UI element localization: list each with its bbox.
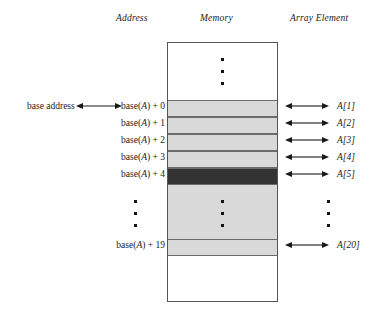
address-label-a4: base(A) + 3 xyxy=(5,152,165,162)
element-label-a20-text: A[20] xyxy=(337,240,360,250)
address-ellipsis-icon xyxy=(134,200,138,227)
array-cell-stack xyxy=(168,100,277,256)
element-label-a2: A[2] xyxy=(337,118,355,128)
memory-top-ellipsis-icon xyxy=(221,58,225,85)
element-label-a4: A[4] xyxy=(337,152,355,162)
array-cell-a1 xyxy=(168,100,277,117)
element-arrow-a2-icon xyxy=(285,117,329,129)
column-header-array-element: Array Element xyxy=(290,13,348,23)
element-arrow-a20-icon xyxy=(285,239,329,251)
address-label-a4-text: base(A) + 3 xyxy=(121,152,165,162)
element-label-a5: A[5] xyxy=(337,169,355,179)
array-cell-a20 xyxy=(168,239,277,256)
array-cell-a5-highlighted xyxy=(168,168,277,185)
memory-middle-ellipsis-icon xyxy=(221,200,225,227)
element-arrow-a1-icon xyxy=(285,100,329,112)
address-label-a3-text: base(A) + 2 xyxy=(121,135,165,145)
element-label-a4-text: A[4] xyxy=(337,152,355,162)
element-label-a20: A[20] xyxy=(337,240,360,250)
element-label-a1-text: A[1] xyxy=(337,101,355,111)
array-cell-a4 xyxy=(168,151,277,168)
element-ellipsis-icon xyxy=(327,200,331,227)
address-label-a5-text: base(A) + 4 xyxy=(121,169,165,179)
array-cell-a2 xyxy=(168,117,277,134)
element-arrow-a3-icon xyxy=(285,134,329,146)
address-label-a1-text: base(A) + 0 xyxy=(121,101,165,111)
element-label-a1: A[1] xyxy=(337,101,355,111)
element-arrow-a4-icon xyxy=(285,151,329,163)
element-label-a3: A[3] xyxy=(337,135,355,145)
address-column: base(A) + 0 base(A) + 1 base(A) + 2 base… xyxy=(0,0,165,322)
address-label-a2-text: base(A) + 1 xyxy=(121,118,165,128)
address-label-a3: base(A) + 2 xyxy=(5,135,165,145)
element-label-a5-text: A[5] xyxy=(337,169,355,179)
address-label-a20: base(A) + 19 xyxy=(5,240,165,250)
memory-array-layout-diagram: Address Memory Array Element base(A) + 0… xyxy=(0,0,372,322)
column-header-memory: Memory xyxy=(200,13,233,23)
address-label-a5: base(A) + 4 xyxy=(5,169,165,179)
element-label-a3-text: A[3] xyxy=(337,135,355,145)
address-label-a2: base(A) + 1 xyxy=(5,118,165,128)
base-address-double-arrow-icon xyxy=(76,100,122,112)
address-label-a20-text: base(A) + 19 xyxy=(116,240,165,250)
array-cell-a3 xyxy=(168,134,277,151)
element-arrow-a5-icon xyxy=(285,168,329,180)
element-label-a2-text: A[2] xyxy=(337,118,355,128)
base-address-caption: base address xyxy=(27,101,75,111)
